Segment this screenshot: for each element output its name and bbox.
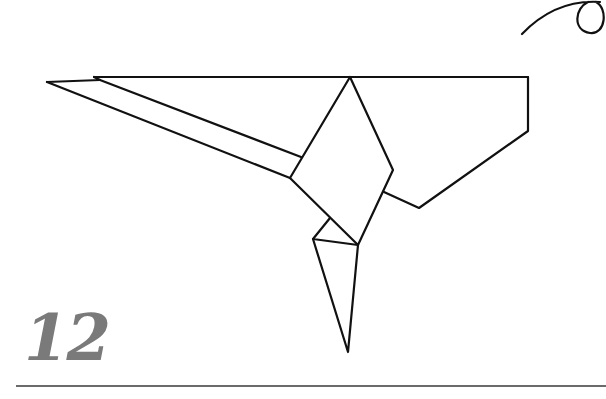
wing-inner-edge (100, 80, 301, 157)
divider-rule (16, 385, 606, 387)
wing-lower-edge (47, 77, 100, 82)
body-right (384, 77, 528, 208)
kite-fold (290, 77, 393, 245)
curved-loop-arrow-icon (522, 2, 604, 34)
long-point (313, 239, 358, 352)
step-number: 12 (24, 306, 109, 370)
wing-outer-edge (47, 82, 290, 178)
